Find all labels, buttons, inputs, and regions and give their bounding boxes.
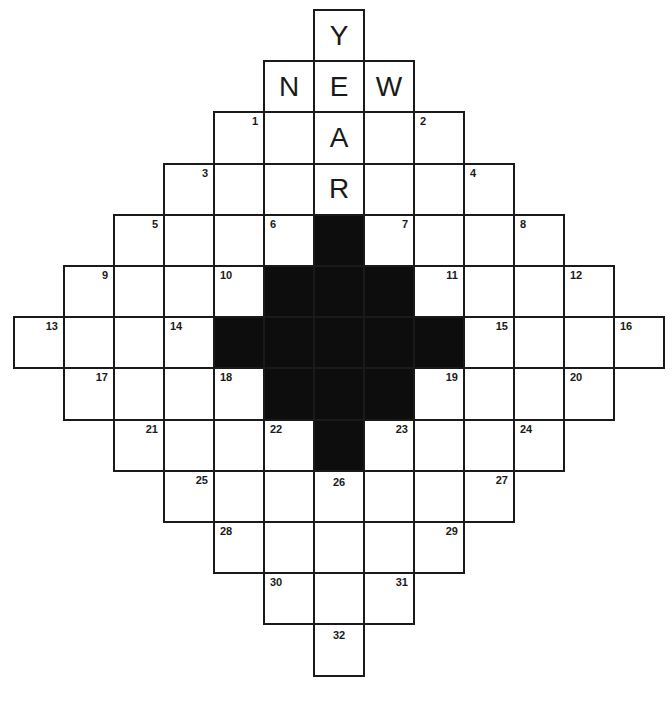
crossword-cell[interactable]: 14 <box>163 316 215 369</box>
crossword-cell[interactable]: 11 <box>413 265 465 318</box>
crossword-cell[interactable] <box>263 521 315 574</box>
crossword-cell[interactable]: 12 <box>563 265 615 318</box>
crossword-cell[interactable] <box>113 316 165 369</box>
crossword-cell[interactable] <box>213 419 265 472</box>
crossword-cell[interactable]: 19 <box>413 367 465 420</box>
clue-number: 26 <box>315 477 363 488</box>
clue-number: 6 <box>270 219 276 230</box>
crossword-cell[interactable] <box>463 214 515 267</box>
crossword-cell[interactable] <box>413 163 465 216</box>
crossword-cell[interactable]: 17 <box>63 367 115 420</box>
crossword-cell[interactable] <box>313 521 365 574</box>
crossword-grid: YNEW1A23R4567891011121314151617181920212… <box>0 0 672 704</box>
crossword-cell[interactable] <box>413 419 465 472</box>
black-square <box>313 214 365 267</box>
crossword-cell[interactable] <box>513 265 565 318</box>
clue-number: 5 <box>152 219 158 230</box>
crossword-cell[interactable]: 4 <box>463 163 515 216</box>
clue-number: 30 <box>270 577 282 588</box>
clue-number: 29 <box>446 526 458 537</box>
filled-letter: Y <box>315 22 363 50</box>
crossword-cell[interactable] <box>163 419 215 472</box>
crossword-cell[interactable]: 23 <box>363 419 415 472</box>
crossword-cell[interactable]: E <box>313 60 365 113</box>
crossword-cell[interactable] <box>413 470 465 523</box>
clue-number: 15 <box>496 321 508 332</box>
clue-number: 24 <box>520 424 532 435</box>
crossword-cell[interactable]: 32 <box>313 623 365 676</box>
crossword-cell[interactable] <box>213 214 265 267</box>
black-square <box>363 367 415 420</box>
crossword-cell[interactable]: 22 <box>263 419 315 472</box>
crossword-cell[interactable]: Y <box>313 9 365 62</box>
crossword-cell[interactable] <box>363 470 415 523</box>
black-square <box>413 316 465 369</box>
crossword-cell[interactable]: N <box>263 60 315 113</box>
crossword-cell[interactable] <box>363 521 415 574</box>
crossword-cell[interactable]: 7 <box>363 214 415 267</box>
crossword-cell[interactable]: 5 <box>113 214 165 267</box>
black-square <box>363 265 415 318</box>
crossword-cell[interactable]: 20 <box>563 367 615 420</box>
crossword-cell[interactable] <box>563 316 615 369</box>
black-square <box>363 316 415 369</box>
crossword-cell[interactable]: 15 <box>463 316 515 369</box>
crossword-cell[interactable]: 6 <box>263 214 315 267</box>
crossword-cell[interactable]: 16 <box>613 316 665 369</box>
crossword-cell[interactable]: 18 <box>213 367 265 420</box>
crossword-cell[interactable]: W <box>363 60 415 113</box>
crossword-cell[interactable] <box>363 163 415 216</box>
crossword-cell[interactable] <box>113 367 165 420</box>
crossword-cell[interactable] <box>513 367 565 420</box>
crossword-cell[interactable]: 25 <box>163 470 215 523</box>
crossword-cell[interactable] <box>263 111 315 164</box>
crossword-cell[interactable] <box>163 214 215 267</box>
black-square <box>213 316 265 369</box>
crossword-cell[interactable]: 9 <box>63 265 115 318</box>
clue-number: 23 <box>396 424 408 435</box>
crossword-cell[interactable]: 8 <box>513 214 565 267</box>
clue-number: 18 <box>220 372 232 383</box>
black-square <box>313 367 365 420</box>
crossword-cell[interactable]: 21 <box>113 419 165 472</box>
clue-number: 7 <box>402 219 408 230</box>
black-square <box>263 265 315 318</box>
crossword-cell[interactable] <box>413 214 465 267</box>
crossword-cell[interactable]: 3 <box>163 163 215 216</box>
crossword-cell[interactable] <box>163 367 215 420</box>
crossword-cell[interactable] <box>313 572 365 625</box>
clue-number: 19 <box>446 372 458 383</box>
crossword-cell[interactable]: 26 <box>313 470 365 523</box>
crossword-cell[interactable] <box>363 111 415 164</box>
black-square <box>313 265 365 318</box>
crossword-cell[interactable]: 29 <box>413 521 465 574</box>
clue-number: 21 <box>146 424 158 435</box>
crossword-cell[interactable] <box>213 163 265 216</box>
crossword-cell[interactable] <box>113 265 165 318</box>
clue-number: 27 <box>496 475 508 486</box>
crossword-cell[interactable] <box>63 316 115 369</box>
crossword-cell[interactable]: 31 <box>363 572 415 625</box>
crossword-cell[interactable] <box>263 163 315 216</box>
crossword-cell[interactable] <box>163 265 215 318</box>
crossword-cell[interactable]: 30 <box>263 572 315 625</box>
crossword-cell[interactable] <box>513 316 565 369</box>
clue-number: 20 <box>570 372 582 383</box>
crossword-cell[interactable]: 13 <box>13 316 65 369</box>
black-square <box>263 367 315 420</box>
crossword-cell[interactable] <box>463 419 515 472</box>
crossword-cell[interactable]: 1 <box>213 111 265 164</box>
clue-number: 2 <box>420 116 426 127</box>
crossword-cell[interactable] <box>263 470 315 523</box>
crossword-cell[interactable]: 10 <box>213 265 265 318</box>
crossword-cell[interactable]: 24 <box>513 419 565 472</box>
crossword-cell[interactable]: A <box>313 111 365 164</box>
black-square <box>313 419 365 472</box>
crossword-cell[interactable] <box>213 470 265 523</box>
crossword-cell[interactable]: 28 <box>213 521 265 574</box>
crossword-cell[interactable]: 2 <box>413 111 465 164</box>
crossword-cell[interactable] <box>463 367 515 420</box>
crossword-cell[interactable]: R <box>313 163 365 216</box>
crossword-cell[interactable] <box>463 265 515 318</box>
crossword-cell[interactable]: 27 <box>463 470 515 523</box>
